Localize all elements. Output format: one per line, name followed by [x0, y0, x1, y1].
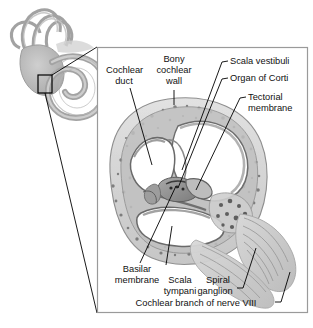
label-scala-tympani-line2: tympani — [164, 286, 197, 296]
label-spiral-ganglion-line2: ganglion — [197, 286, 232, 296]
label-bony-cochlear-wall-line2: cochlear — [156, 65, 191, 75]
connector-line-bottom — [45, 93, 97, 313]
label-tectorial-membrane-line1: Tectorial — [248, 92, 283, 102]
label-scala-vestibuli: Scala vestibuli — [230, 56, 289, 66]
label-cochlear-duct-line2: duct — [115, 76, 133, 86]
label-bony-cochlear-wall-line1: Bony — [163, 54, 185, 64]
label-cochlear-duct-line1: Cochlear — [106, 65, 143, 75]
label-organ-of-corti: Organ of Corti — [230, 73, 288, 83]
inset-bony-labyrinth — [11, 10, 105, 313]
label-scala-tympani-line1: Scala — [168, 275, 192, 285]
label-spiral-ganglion-line1: Spiral — [206, 275, 230, 285]
label-basilar-membrane-line2: membrane — [115, 275, 159, 285]
cochlea-figure: Cochlear duct Bony cochlear wall Scala v… — [0, 0, 313, 328]
label-cochlear-branch: Cochlear branch of nerve VIII — [136, 298, 257, 308]
label-basilar-membrane-line1: Basilar — [123, 264, 151, 274]
label-bony-cochlear-wall-line3: wall — [165, 76, 182, 86]
label-tectorial-membrane-line2: membrane — [248, 103, 292, 113]
